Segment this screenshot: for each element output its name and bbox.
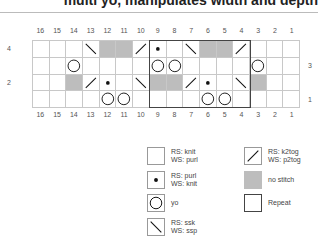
chart-cell-knit [267, 91, 284, 108]
column-number: 5 [216, 27, 233, 34]
column-number: 13 [82, 111, 99, 118]
column-number: 1 [283, 27, 300, 34]
chart-cell-knit [233, 91, 250, 108]
column-number: 3 [250, 27, 267, 34]
chart-cell-knit [83, 91, 100, 108]
legend-knit: RS: knit WS: purl [147, 147, 198, 165]
chart-cell-nostitch [200, 41, 217, 58]
chart-cell-nostitch [100, 41, 117, 58]
chart-cell-knit [50, 91, 67, 108]
column-numbers-bottom: 16151413121110987654321 [32, 111, 300, 118]
column-number: 2 [267, 111, 284, 118]
column-number: 8 [166, 111, 183, 118]
no-stitch-swatch-icon [244, 171, 262, 189]
chart-cell-knit [233, 58, 250, 75]
chart-cell-knit [133, 91, 150, 108]
chart-cell-knit [267, 41, 284, 58]
column-number: 14 [66, 111, 83, 118]
legend-ssk: RS: ssk WS: ssp [147, 218, 197, 236]
column-number: 16 [32, 27, 49, 34]
column-number: 14 [66, 27, 83, 34]
legend-k2tog-ws: WS: p2tog [268, 156, 301, 164]
column-number: 9 [149, 27, 166, 34]
legend-knit-rs: RS: knit [171, 148, 198, 156]
column-number: 8 [166, 27, 183, 34]
chart-cell-yo [167, 58, 184, 75]
column-number: 11 [116, 111, 133, 118]
row-number: 3 [308, 62, 312, 69]
chart-cell-yo [150, 58, 167, 75]
chart-cell-ssk [133, 75, 150, 92]
chart-cell-nostitch [66, 75, 83, 92]
chart-cell-knit [250, 41, 267, 58]
repeat-box-icon [244, 194, 262, 212]
yarn-over-circle-icon [147, 194, 165, 212]
legend-purl: RS: purl WS: knit [147, 171, 197, 189]
chart-cell-nostitch [250, 75, 267, 92]
column-number: 10 [133, 111, 150, 118]
column-number: 12 [99, 111, 116, 118]
row-number: 4 [7, 45, 11, 52]
column-number: 4 [233, 111, 250, 118]
chart-cell-knit [50, 58, 67, 75]
chart-cell-knit [33, 91, 50, 108]
legend-k2tog-rs: RS: k2tog [268, 148, 301, 156]
chart-cell-knit [50, 75, 67, 92]
chart-cell-knit [66, 91, 83, 108]
legend-purl-rs: RS: purl [171, 172, 197, 180]
chart-cell-yo [100, 91, 117, 108]
column-numbers-top: 16151413121110987654321 [32, 27, 300, 34]
chart-cell-yo [116, 91, 133, 108]
chart-cell-nostitch [167, 75, 184, 92]
legend-yo-label: yo [171, 199, 178, 207]
chart-cell-knit [100, 58, 117, 75]
column-number: 7 [183, 111, 200, 118]
column-number: 6 [200, 111, 217, 118]
chart-cell-knit [283, 75, 300, 92]
legend-yo: yo [147, 194, 178, 212]
chart-cell-ssk [233, 75, 250, 92]
row-number: 1 [308, 96, 312, 103]
chart-cell-knit [200, 58, 217, 75]
legend-no-stitch: no stitch [244, 171, 294, 189]
chart-cell-knit [133, 58, 150, 75]
column-number: 3 [250, 111, 267, 118]
chart-cell-knit [167, 41, 184, 58]
chart-cell-yo [217, 91, 234, 108]
chart-cell-knit [33, 58, 50, 75]
column-number: 9 [149, 111, 166, 118]
legend-k2tog: RS: k2tog WS: p2tog [244, 147, 301, 165]
chart-cell-k2tog [83, 75, 100, 92]
chart-cell-ssk [183, 41, 200, 58]
chart-cell-knit [183, 58, 200, 75]
column-number: 6 [200, 27, 217, 34]
column-number: 10 [133, 27, 150, 34]
column-number: 13 [82, 27, 99, 34]
knitting-chart-grid [32, 40, 300, 108]
column-number: 11 [116, 27, 133, 34]
chart-title: multi yo, manipulates width and depth [64, 0, 318, 8]
chart-cell-knit [283, 41, 300, 58]
row-number: 2 [7, 79, 11, 86]
chart-cell-knit [116, 58, 133, 75]
column-number: 2 [267, 27, 284, 34]
legend-knit-ws: WS: purl [171, 156, 198, 164]
chart-cell-ssk [83, 41, 100, 58]
chart-cell-purl [200, 75, 217, 92]
chart-cell-knit [83, 58, 100, 75]
column-number: 5 [216, 111, 233, 118]
chart-cell-k2tog [183, 75, 200, 92]
column-number: 4 [233, 27, 250, 34]
purl-dot-icon [147, 171, 165, 189]
legend-ssk-ws: WS: ssp [171, 227, 197, 235]
column-number: 15 [49, 27, 66, 34]
chart-cell-knit [33, 75, 50, 92]
chart-cell-nostitch [217, 41, 234, 58]
column-number: 7 [183, 27, 200, 34]
chart-cell-k2tog [233, 41, 250, 58]
chart-cell-knit [217, 58, 234, 75]
chart-cell-knit [267, 58, 284, 75]
chart-cell-nostitch [116, 41, 133, 58]
chart-cell-yo [250, 58, 267, 75]
column-number: 12 [99, 27, 116, 34]
